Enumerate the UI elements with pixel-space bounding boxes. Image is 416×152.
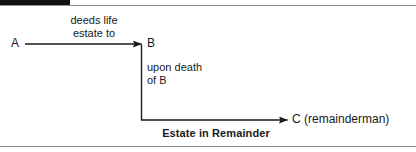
caption-estate-in-remainder: Estate in Remainder [152, 127, 280, 140]
node-label-c: C (remainderman) [292, 113, 389, 126]
bottom-divider-rule [0, 146, 416, 147]
node-label-a: A [11, 37, 19, 50]
caption-deeds-life-estate-to: deeds life estate to [48, 14, 140, 40]
caption-upon-death-of-b: upon death of B [147, 61, 202, 87]
node-label-b: B [147, 37, 155, 50]
estate-diagram-figure: deeds life estate to A B upon death of B… [0, 0, 416, 152]
